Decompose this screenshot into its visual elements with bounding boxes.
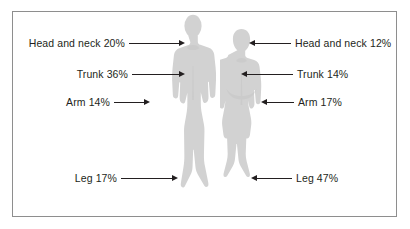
leader-arrow-head-and-neck-right bbox=[249, 39, 291, 48]
callout-label-leg-left: Leg 17% bbox=[75, 171, 117, 185]
callout-label-head-and-neck-left: Head and neck 20% bbox=[29, 36, 125, 50]
arrowhead-right-icon bbox=[172, 175, 178, 181]
arrowhead-left-icon bbox=[249, 40, 255, 46]
callout-leg-right: Leg 47% bbox=[251, 171, 381, 185]
callout-leg-left: Leg 17% bbox=[18, 171, 178, 185]
arrowhead-right-icon bbox=[144, 99, 150, 105]
arrowhead-left-icon bbox=[241, 71, 247, 77]
callout-trunk-right: Trunk 14% bbox=[241, 67, 386, 81]
leader-shaft bbox=[114, 102, 144, 103]
arrowhead-right-icon bbox=[179, 40, 185, 46]
leader-arrow-leg-left bbox=[121, 174, 178, 183]
callout-label-head-and-neck-right: Head and neck 12% bbox=[295, 36, 391, 50]
leader-shaft bbox=[257, 178, 292, 179]
callout-label-arm-right: Arm 17% bbox=[298, 95, 342, 109]
leader-shaft bbox=[129, 43, 179, 44]
leader-shaft bbox=[255, 43, 291, 44]
callout-trunk-left: Trunk 36% bbox=[18, 67, 185, 81]
callout-head-and-neck-right: Head and neck 12% bbox=[249, 36, 394, 50]
leader-shaft bbox=[132, 74, 179, 75]
callout-arm-right: Arm 17% bbox=[261, 95, 391, 109]
callout-label-trunk-right: Trunk 14% bbox=[297, 67, 348, 81]
arrowhead-left-icon bbox=[251, 175, 257, 181]
leader-arrow-trunk-right bbox=[241, 70, 293, 79]
callout-label-trunk-left: Trunk 36% bbox=[77, 67, 128, 81]
leader-arrow-arm-left bbox=[114, 98, 150, 107]
leader-arrow-arm-right bbox=[261, 98, 294, 107]
leader-arrow-leg-right bbox=[251, 174, 292, 183]
leader-shaft bbox=[267, 102, 294, 103]
leader-shaft bbox=[121, 178, 172, 179]
leader-shaft bbox=[247, 74, 293, 75]
callout-head-and-neck-left: Head and neck 20% bbox=[18, 36, 185, 50]
leader-arrow-trunk-left bbox=[132, 70, 185, 79]
callout-label-arm-left: Arm 14% bbox=[66, 95, 110, 109]
arrowhead-left-icon bbox=[261, 99, 267, 105]
leader-arrow-head-and-neck-left bbox=[129, 39, 185, 48]
callout-arm-left: Arm 14% bbox=[18, 95, 150, 109]
callout-label-leg-right: Leg 47% bbox=[296, 171, 338, 185]
body-proportion-diagram: Head and neck 20% Trunk 36% Arm 14% Leg … bbox=[0, 0, 410, 229]
arrowhead-right-icon bbox=[179, 71, 185, 77]
